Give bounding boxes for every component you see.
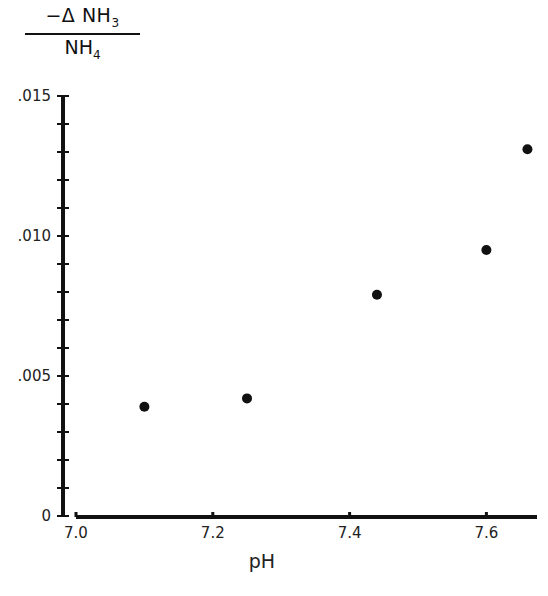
data-point [372, 290, 382, 300]
data-point [481, 245, 491, 255]
x-tick-label: 7.2 [201, 524, 225, 542]
y-tick-label: .015 [18, 87, 51, 105]
scatter-plot: 0.005.010.015 7.07.27.47.6 pH [0, 0, 548, 596]
y-tick-label: .005 [18, 367, 51, 385]
x-tick-label: 7.6 [474, 524, 498, 542]
x-axis: 7.07.27.47.6 [64, 512, 537, 542]
x-axis-title: pH [249, 550, 275, 572]
x-tick-label: 7.4 [338, 524, 362, 542]
data-point [242, 393, 252, 403]
data-point [139, 402, 149, 412]
y-axis: 0.005.010.015 [18, 87, 69, 525]
x-tick-label: 7.0 [64, 524, 88, 542]
y-tick-label: .010 [18, 227, 51, 245]
data-point [522, 144, 532, 154]
y-tick-label: 0 [41, 507, 51, 525]
data-points [139, 144, 532, 412]
